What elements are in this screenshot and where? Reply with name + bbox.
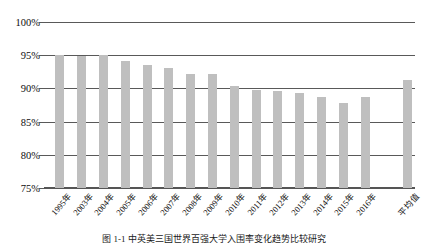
chart-figure: 100%95%90%85%80%75% 1995年2003年2004年2005年… [0,0,428,243]
x-tick-label: 2015年 [331,190,357,217]
bar [77,56,86,188]
x-axis-labels: 1995年2003年2004年2005年2006年2007年2008年2009年… [44,190,415,234]
y-tick-label: 85% [0,116,40,127]
y-tick-label: 95% [0,50,40,61]
bar [361,97,370,188]
y-tick-label: 100% [0,17,40,28]
bar [164,68,173,188]
bar [403,80,412,188]
y-tick-label: 90% [0,83,40,94]
x-tick-label: 2016年 [353,190,379,217]
x-tick-label: 2013年 [287,190,313,217]
x-tick-label: 2009年 [200,190,226,217]
x-tick-label: 平均值 [395,190,422,218]
bar [99,55,108,188]
x-tick-label: 2014年 [309,190,335,217]
bar [295,93,304,188]
y-tick-label: 80% [0,149,40,160]
bar [252,90,261,188]
bar [208,74,217,188]
x-tick-label: 2008年 [178,190,204,217]
y-axis-labels: 100%95%90%85%80%75% [0,22,40,188]
x-tick-label: 2003年 [69,190,95,217]
figure-caption: 图 1-1 中英美三国世界百强大学入围率变化趋势比较研究 [0,233,428,243]
bar [339,103,348,188]
x-tick-label: 2011年 [244,190,270,217]
x-tick-label: 2004年 [91,190,117,217]
bar [143,65,152,188]
y-tick-label: 75% [0,183,40,194]
x-tick-label: 2005年 [113,190,139,217]
bar [230,86,239,188]
plot-area [44,22,415,188]
x-tick-label: 1995年 [47,190,73,217]
x-tick-label: 2012年 [266,190,292,217]
bar [186,74,195,188]
bar [55,55,64,188]
bar-series [44,22,415,188]
x-tick-label: 2007年 [156,190,182,217]
x-tick-label: 2006年 [135,190,161,217]
bar [317,97,326,188]
x-tick-label: 2010年 [222,190,248,217]
bar [273,91,282,188]
bar [121,61,130,188]
